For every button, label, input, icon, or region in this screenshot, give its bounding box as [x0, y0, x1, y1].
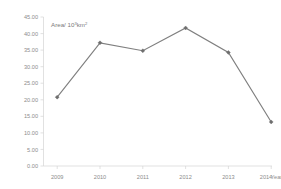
x-tick-label: 2010: [94, 174, 106, 180]
x-tick-label: 2009: [51, 174, 63, 180]
line-chart: 0.00 5.00 10.00 15.00 20.00 25.00 30.00 …: [0, 0, 281, 189]
y-axis-title-suffix: km: [77, 21, 85, 28]
y-axis-title: Area/ 103km2: [51, 21, 88, 28]
y-tick-label: 5.00: [27, 147, 38, 153]
y-axis-title-suffix-exponent: 2: [85, 21, 88, 26]
x-tick-label: 2011: [137, 174, 149, 180]
y-tick-label: 40.00: [24, 31, 38, 37]
y-tick-label: 0.00: [27, 163, 38, 169]
y-axis-tick-labels: 0.00 5.00 10.00 15.00 20.00 25.00 30.00 …: [24, 14, 38, 169]
chart-canvas: 0.00 5.00 10.00 15.00 20.00 25.00 30.00 …: [0, 0, 281, 189]
y-tick-label: 20.00: [24, 97, 38, 103]
y-tick-label: 30.00: [24, 64, 38, 70]
y-axis-title-prefix: Area/ 10: [51, 21, 75, 28]
y-tick-label: 35.00: [24, 47, 38, 53]
x-axis-ticks: [57, 166, 271, 169]
x-axis-tick-labels: 2009 2010 2011 2012 2013 2014 Year: [51, 174, 281, 180]
x-tick-label: 2013: [222, 174, 234, 180]
y-tick-label: 45.00: [24, 14, 38, 20]
x-tick-label: 2012: [179, 174, 191, 180]
y-tick-label: 15.00: [24, 113, 38, 119]
series-line-area: [57, 28, 271, 122]
series-markers: [55, 26, 273, 124]
y-tick-label: 25.00: [24, 80, 38, 86]
y-tick-label: 10.00: [24, 130, 38, 136]
x-axis-title: Year: [271, 174, 281, 180]
y-axis-ticks: [41, 17, 44, 166]
